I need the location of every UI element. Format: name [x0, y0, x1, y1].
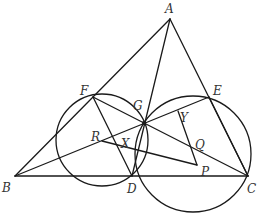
label-X: X [120, 137, 130, 151]
label-F: F [79, 84, 89, 98]
label-D: D [126, 182, 137, 196]
label-P: P [200, 165, 210, 179]
segment-BE [15, 97, 209, 176]
label-Q: Q [195, 138, 205, 152]
label-E: E [212, 84, 222, 98]
label-C: C [247, 182, 256, 196]
label-G: G [133, 99, 143, 113]
label-R: R [90, 130, 100, 144]
label-A: A [164, 2, 174, 16]
diagram-canvas: A B C D E F G P Q R X Y [0, 0, 261, 217]
segment-FC [93, 97, 248, 176]
segment-AD [132, 19, 170, 176]
point-G-marker [142, 121, 146, 125]
geometry-diagram: A B C D E F G P Q R X Y [0, 0, 261, 217]
label-B: B [1, 181, 11, 195]
segment-RP [102, 141, 197, 165]
label-Y: Y [180, 111, 189, 125]
